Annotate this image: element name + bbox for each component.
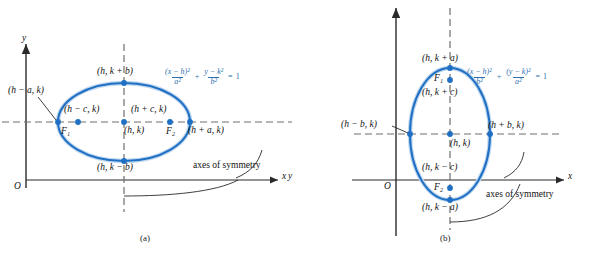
panel-a-label-right-focus-coord: (h + c, k) xyxy=(131,105,166,115)
panel-a-caption: (a) xyxy=(140,233,150,243)
panel-a-axes-of-symmetry-note: axes of symmetry xyxy=(193,160,261,170)
panel-b-label-left-covertex: (h − b, k) xyxy=(341,120,377,130)
panel-b-equation: (x − h)² b² + (y − k)² a² = 1 xyxy=(465,68,547,86)
point-left-covertex xyxy=(407,131,413,137)
panel-b-axes xyxy=(352,8,564,236)
panel-a-equation-term-1: (x − h)² a² xyxy=(163,68,192,86)
panel-b-label-focus-2: F₂ xyxy=(434,183,443,193)
point-top-vertex xyxy=(447,65,453,71)
panel-a-label-focus-2: F₂ xyxy=(166,127,175,137)
panel-b-vertical-ellipse: y x O (h, k + a) (h, k − a) (h − b, k) (… xyxy=(296,0,592,256)
panel-a-symmetry-axes xyxy=(2,44,292,212)
panel-a-equation: (x − h)² a² + y − k² b² = 1 xyxy=(163,68,240,86)
panel-a-label-left-focus-coord: (h − c, k) xyxy=(64,105,99,115)
point-focus-1 xyxy=(75,119,81,125)
point-focus-2 xyxy=(167,119,173,125)
panel-a-label-bottom-covertex: (h, k − b) xyxy=(97,163,133,173)
panel-b-label-right-covertex: (h + b, k) xyxy=(488,121,524,131)
panel-b-label-center: (h, k) xyxy=(450,139,470,149)
panel-a-label-top-covertex: (h, k + b) xyxy=(97,67,133,77)
panel-a-origin-label: O xyxy=(14,182,21,192)
panel-b-label-top-vertex: (h, k + a) xyxy=(422,54,458,64)
point-top-covertex xyxy=(121,80,127,86)
panel-a-leader-symmetry-vertical xyxy=(124,180,238,196)
panel-a-leader-left-vertex xyxy=(38,97,56,120)
panel-b-x-axis-label: x xyxy=(568,172,572,182)
ellipse-standard-form-figure: y x O (h, k + b) (h, k − b) (h − a, k) (… xyxy=(0,0,592,256)
panel-a-horizontal-ellipse: y x O (h, k + b) (h, k − b) (h − a, k) (… xyxy=(0,0,296,256)
point-focus-2 xyxy=(447,185,453,191)
panel-a-label-right-vertex: (h + a, k) xyxy=(188,126,224,136)
panel-a-label-left-vertex: (h − a, k) xyxy=(8,86,44,96)
panel-b-y-axis-label: y xyxy=(288,172,292,182)
point-right-covertex xyxy=(487,131,493,137)
panel-b-label-upper-focus-coord: (h, k + c) xyxy=(422,88,457,98)
panel-b-label-bottom-vertex: (h, k − a) xyxy=(422,203,458,213)
panel-b-origin-label: O xyxy=(384,182,391,192)
panel-b-equation-term-1: (x − h)² b² xyxy=(465,68,494,86)
panel-a-equation-term-2: y − k² b² xyxy=(202,68,225,86)
panel-a-label-focus-1: F₁ xyxy=(61,127,70,137)
point-center xyxy=(447,131,453,137)
point-focus-1 xyxy=(447,77,453,83)
panel-b-leader-left-covertex xyxy=(392,126,408,133)
panel-a-label-center: (h, k) xyxy=(124,126,144,136)
panel-b-label-focus-1: F₁ xyxy=(434,74,443,84)
panel-b-leader-symmetry-horizontal xyxy=(504,152,524,178)
panel-b-caption: (b) xyxy=(440,233,451,243)
panel-a-graphic xyxy=(0,0,296,256)
panel-a-x-axis-label: x xyxy=(282,172,286,182)
panel-a-y-axis-label: y xyxy=(22,34,26,44)
panel-b-label-lower-focus-coord: (h, k − c) xyxy=(422,163,457,173)
panel-b-equation-term-2: (y − k)² a² xyxy=(504,68,532,86)
panel-b-axes-of-symmetry-note: axes of symmetry xyxy=(486,189,554,199)
